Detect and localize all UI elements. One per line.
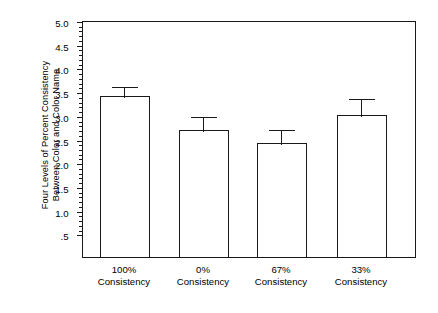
bar <box>257 143 307 257</box>
y-axis-tick-minor <box>79 145 83 146</box>
y-axis-tick-minor <box>79 55 83 56</box>
y-axis-tick-minor <box>79 60 83 61</box>
y-axis-tick-label: 2.5 <box>55 136 68 147</box>
error-bar-stem <box>203 117 204 133</box>
y-axis-tick-minor <box>79 150 83 151</box>
y-axis-tick-minor <box>79 193 83 194</box>
y-axis-tick-label: 3.5 <box>55 89 68 100</box>
plot-area: 5.04.54.03.53.02.52.01.51.0.5 <box>82 21 416 258</box>
y-axis-tick-minor <box>79 27 83 28</box>
y-axis-tick-minor <box>79 126 83 127</box>
y-axis-tick-label: 4.5 <box>55 41 68 52</box>
y-axis-tick-minor <box>79 131 83 132</box>
y-axis-tick-minor <box>79 103 83 104</box>
y-axis-tick-minor <box>79 155 83 156</box>
y-axis-tick-major: .5 <box>77 235 84 236</box>
y-axis-tick-label: 1.0 <box>55 207 68 218</box>
y-axis-tick-label: 4.0 <box>55 65 68 76</box>
y-axis-tick-minor <box>79 159 83 160</box>
y-axis-tick-major: 1.5 <box>77 188 84 189</box>
y-axis-tick-minor <box>79 183 83 184</box>
x-axis-label: 0%Consistency <box>158 264 248 288</box>
bar-chart-figure: Four Levels of Percent Consistency Betwe… <box>0 0 438 313</box>
error-bar-stem <box>361 99 362 117</box>
bar <box>100 96 150 257</box>
y-axis-tick-minor <box>79 31 83 32</box>
y-axis-tick-minor <box>79 231 83 232</box>
y-axis-tick-label: 2.0 <box>55 160 68 171</box>
bar <box>179 130 229 257</box>
y-axis-tick-major: 2.0 <box>77 164 84 165</box>
x-axis-label-word: Consistency <box>316 276 406 288</box>
x-axis-label-word: Consistency <box>79 276 169 288</box>
x-axis-label-percent: 33% <box>316 264 406 276</box>
x-axis-label: 33%Consistency <box>316 264 406 288</box>
y-axis-tick-minor <box>79 88 83 89</box>
y-axis-tick-minor <box>79 122 83 123</box>
y-axis-tick-minor <box>79 169 83 170</box>
y-axis-tick-minor <box>79 226 83 227</box>
x-axis-label-percent: 100% <box>79 264 169 276</box>
y-axis-title-line-1: Four Levels of Percent Consistency <box>40 61 51 209</box>
y-axis-tick-minor <box>79 98 83 99</box>
y-axis-tick-major: 4.0 <box>77 69 84 70</box>
y-axis-tick-minor <box>79 202 83 203</box>
y-axis-tick-minor <box>79 36 83 37</box>
error-bar-cap <box>349 99 375 100</box>
y-axis-tick-minor <box>79 50 83 51</box>
y-axis-tick-minor <box>79 79 83 80</box>
y-axis-tick-minor <box>79 65 83 66</box>
y-axis-tick-label: 5.0 <box>55 18 68 29</box>
y-axis-tick-label: .5 <box>60 231 68 242</box>
x-axis-label: 67%Consistency <box>236 264 326 288</box>
y-axis-tick-label: 1.5 <box>55 183 68 194</box>
y-axis-tick-minor <box>79 41 83 42</box>
y-axis-tick-major: 1.0 <box>77 212 84 213</box>
y-axis-tick-major: 4.5 <box>77 46 84 47</box>
y-axis-tick-minor <box>79 197 83 198</box>
y-axis-tick-label: 3.0 <box>55 112 68 123</box>
error-bar-cap <box>112 87 138 88</box>
y-axis-tick-major: 3.0 <box>77 117 84 118</box>
y-axis-tick-minor <box>79 178 83 179</box>
y-axis-tick-minor <box>79 112 83 113</box>
error-bar-cap <box>191 117 217 118</box>
y-axis-tick-minor <box>79 221 83 222</box>
y-axis-tick-minor <box>79 216 83 217</box>
y-axis-tick-minor <box>79 136 83 137</box>
bar <box>337 115 387 257</box>
y-axis-tick-minor <box>79 84 83 85</box>
y-axis-tick-minor <box>79 207 83 208</box>
error-bar-stem <box>281 130 282 146</box>
y-axis-tick-minor <box>79 107 83 108</box>
x-axis-label-percent: 67% <box>236 264 326 276</box>
y-axis-tick-major: 5.0 <box>77 22 84 23</box>
y-axis-tick-minor <box>79 174 83 175</box>
y-axis-tick-major: 2.5 <box>77 141 84 142</box>
x-axis-label-word: Consistency <box>236 276 326 288</box>
x-axis-label: 100%Consistency <box>79 264 169 288</box>
y-axis-tick-minor <box>79 74 83 75</box>
x-axis-label-percent: 0% <box>158 264 248 276</box>
error-bar-stem <box>124 87 125 98</box>
error-bar-cap <box>269 130 295 131</box>
y-axis-tick-major: 3.5 <box>77 93 84 94</box>
x-axis-label-word: Consistency <box>158 276 248 288</box>
